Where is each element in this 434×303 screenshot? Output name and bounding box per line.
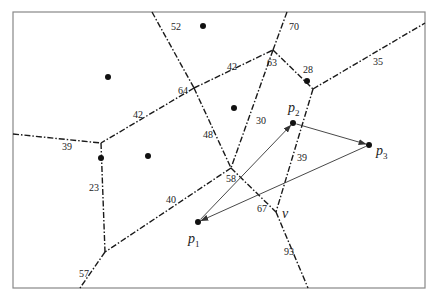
- site-point: [366, 142, 372, 148]
- edge-weight-label: 48: [203, 129, 213, 140]
- site-point: [195, 219, 201, 225]
- vertex-weight-label: 64: [178, 85, 188, 96]
- vertex-v-label: v: [282, 206, 289, 221]
- edge-weight-label: 70: [289, 21, 299, 32]
- edge-weight-label: 93: [284, 246, 294, 257]
- voronoi-edge: [101, 88, 194, 143]
- voronoi-edges: [13, 12, 425, 288]
- edge-weight-label: 30: [256, 115, 266, 126]
- site-point: [231, 105, 237, 111]
- edge-weight-label: 35: [373, 56, 383, 67]
- edge-weight-label: 28: [303, 64, 313, 75]
- edge-weight-label: 40: [166, 194, 176, 205]
- voronoi-edge: [105, 168, 231, 252]
- edge-weight-label: 52: [171, 21, 181, 32]
- voronoi-diagram: 524270283542394830392340576793646358 p2p…: [0, 0, 434, 303]
- arrow: [200, 126, 290, 220]
- edge-weight-label: 39: [62, 141, 72, 152]
- site-point: [290, 120, 296, 126]
- site-point: [200, 23, 206, 29]
- edge-weight-label: 23: [89, 182, 99, 193]
- site-point: [304, 78, 310, 84]
- edge-weight-label: 42: [133, 109, 143, 120]
- voronoi-sites: [98, 23, 372, 225]
- site-point: [145, 153, 151, 159]
- voronoi-edge: [13, 134, 101, 143]
- edge-weight-label: 39: [297, 152, 307, 163]
- voronoi-edge: [194, 88, 231, 168]
- arrow: [296, 124, 365, 144]
- voronoi-edge: [273, 12, 287, 50]
- site-point: [98, 155, 104, 161]
- edge-weight-label: 67: [257, 203, 267, 214]
- voronoi-edge: [313, 23, 425, 89]
- vertex-weight-label: 63: [267, 57, 277, 68]
- edge-weight-label: 57: [79, 268, 89, 279]
- site-point: [105, 74, 111, 80]
- site-label-p2: p2: [287, 100, 300, 118]
- edge-weight-label: 42: [227, 61, 237, 72]
- vertex-weight-label: 58: [226, 173, 236, 184]
- edge-weight-labels: 524270283542394830392340576793646358: [62, 21, 383, 279]
- diagram-frame: [13, 12, 425, 288]
- site-label-p3: p3: [375, 143, 388, 161]
- site-label-p1: p1: [187, 231, 200, 249]
